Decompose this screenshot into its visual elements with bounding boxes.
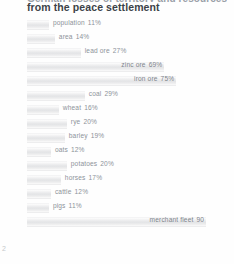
bar-label-coal: coal29% [89, 90, 118, 97]
bar-barley [27, 133, 65, 143]
document-page: German losses of territory and resources… [0, 0, 234, 264]
bar-label-text: population [53, 19, 85, 26]
chart-bar-row: cattle12% [0, 189, 234, 198]
bar-value-text: 16% [84, 104, 98, 111]
bar-label-merchant-fleet: merchant fleet90 [150, 216, 205, 223]
bar-wheat [27, 105, 59, 115]
bar-label-area: area14% [59, 33, 89, 40]
chart-bar-row: zinc ore69% [0, 62, 234, 71]
chart-bar-row: lead ore27% [0, 48, 234, 57]
bar-label-text: barley [69, 132, 88, 139]
bar-label-iron-ore: iron ore75% [134, 75, 174, 82]
bar-value-text: 12% [71, 146, 85, 153]
bar-label-cattle: cattle12% [55, 188, 88, 195]
chart-bar-row: horses17% [0, 175, 234, 184]
bar-value-text: 20% [83, 118, 97, 125]
bar-value-text: 17% [89, 174, 103, 181]
chart-bar-row: iron ore75% [0, 76, 234, 85]
bar-population [27, 20, 49, 30]
chart-bar-row: wheat16% [0, 105, 234, 114]
bar-area [27, 34, 55, 44]
chart-bar-row: oats12% [0, 147, 234, 156]
bar-lead-ore [27, 48, 81, 58]
bar-label-text: zinc ore [121, 61, 145, 68]
bar-value-text: 29% [104, 90, 118, 97]
bar-label-oats: oats12% [55, 146, 85, 153]
bar-rye [27, 119, 67, 129]
chart-bar-row: pigs11% [0, 203, 234, 212]
bar-value-text: 11% [88, 19, 101, 26]
bar-label-horses: horses17% [65, 174, 102, 181]
chart-bar-row: population11% [0, 20, 234, 29]
bar-label-rye: rye20% [71, 118, 97, 125]
bar-chart: population11%area14%lead ore27%zinc ore6… [0, 18, 234, 264]
chart-bar-row: coal29% [0, 91, 234, 100]
bar-label-zinc-ore: zinc ore69% [121, 61, 162, 68]
bar-cattle [27, 189, 51, 199]
chart-bar-row: barley19% [0, 133, 234, 142]
bar-pigs [27, 203, 49, 213]
bar-label-lead-ore: lead ore27% [85, 47, 127, 54]
bar-value-text: 20% [100, 160, 114, 167]
chart-bar-row: merchant fleet90 [0, 217, 234, 226]
bar-label-barley: barley19% [69, 132, 105, 139]
bar-oats [27, 147, 51, 157]
bar-label-potatoes: potatoes20% [71, 160, 114, 167]
bar-value-text: 75% [161, 75, 175, 82]
bar-value-text: 90 [196, 216, 204, 223]
bar-potatoes [27, 161, 67, 171]
bar-label-text: coal [89, 90, 102, 97]
page-number: 2 [2, 245, 6, 252]
bar-coal [27, 91, 85, 101]
bar-label-text: oats [55, 146, 68, 153]
chart-bar-row: potatoes20% [0, 161, 234, 170]
bar-value-text: 19% [91, 132, 105, 139]
bar-value-text: 11% [69, 202, 82, 209]
bar-label-population: population11% [53, 19, 101, 26]
bar-label-wheat: wheat16% [63, 104, 98, 111]
bar-value-text: 27% [113, 47, 127, 54]
bar-label-pigs: pigs11% [53, 202, 82, 209]
bar-label-text: area [59, 33, 73, 40]
bar-horses [27, 175, 61, 185]
bar-label-text: wheat [63, 104, 81, 111]
bar-label-text: lead ore [85, 47, 110, 54]
bar-label-text: rye [71, 118, 81, 125]
bar-value-text: 14% [76, 33, 90, 40]
bar-label-text: iron ore [134, 75, 158, 82]
bar-value-text: 69% [149, 61, 163, 68]
bar-value-text: 12% [75, 188, 89, 195]
chart-bar-row: rye20% [0, 119, 234, 128]
bar-label-text: horses [65, 174, 86, 181]
bar-label-text: potatoes [71, 160, 98, 167]
chart-bar-row: area14% [0, 34, 234, 43]
bar-label-text: cattle [55, 188, 72, 195]
bar-label-text: merchant fleet [150, 216, 194, 223]
page-title: from the peace settlement [27, 1, 160, 13]
bar-label-text: pigs [53, 202, 66, 209]
